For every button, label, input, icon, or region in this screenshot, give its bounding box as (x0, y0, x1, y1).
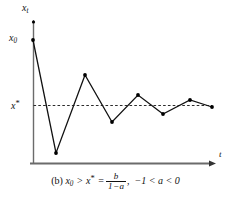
initial-value-label: x0 (9, 33, 17, 45)
data-point (54, 151, 58, 155)
caption-greater-than: > (76, 175, 84, 186)
denominator-a: a (120, 181, 125, 191)
data-point (210, 105, 214, 109)
caption-comma: , (127, 175, 130, 186)
caption-xstar-asterisk: * (91, 173, 95, 183)
initial-value-subscript: 0 (13, 37, 17, 45)
series-markers (31, 38, 214, 155)
data-point (161, 112, 165, 116)
figure-caption: (b) x0 > x* =b1−a, −1 < a < 0 (0, 172, 231, 191)
data-point (136, 93, 140, 97)
y-axis-label-subscript: t (26, 7, 28, 15)
caption-x0-subscript: 0 (70, 180, 74, 188)
data-point (110, 120, 114, 124)
data-point (188, 98, 192, 102)
data-point (31, 38, 35, 42)
figure-container: xt x0 x* t (b) x0 > x* =b1−a, −1 < a < 0 (0, 0, 231, 201)
data-point (83, 73, 87, 77)
x-axis-arrow-icon (209, 161, 216, 167)
caption-part-label: (b) (51, 175, 63, 186)
equilibrium-label: x* (11, 99, 20, 111)
fraction-denominator: 1−a (106, 181, 126, 191)
caption-equals: = (97, 175, 105, 186)
denominator-minus: − (112, 181, 119, 191)
series-line-x-t (33, 40, 212, 153)
equilibrium-asterisk: * (15, 98, 19, 108)
y-axis-top-dot (32, 20, 35, 23)
x-axis-label: t (219, 150, 222, 159)
caption-fraction: b1−a (106, 172, 126, 191)
y-axis-label: xt (22, 3, 28, 15)
caption-condition: −1 < a < 0 (135, 175, 180, 186)
fraction-numerator: b (106, 172, 126, 181)
